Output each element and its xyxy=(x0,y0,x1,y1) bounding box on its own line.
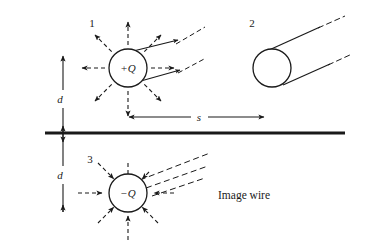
tangent-upper-dashed xyxy=(176,27,205,44)
wire-2-body xyxy=(253,16,352,87)
wire-2-tangent-upper-dashed xyxy=(318,16,345,28)
label-d-above: d xyxy=(57,93,63,105)
wire-3-perspective-lines xyxy=(140,153,210,196)
label-image-wire: Image wire xyxy=(218,189,270,202)
label-d-below: d xyxy=(57,169,63,181)
field-arrow-nw xyxy=(95,35,112,52)
tangent-lower-dashed xyxy=(178,58,206,73)
field-arrow-sw-in xyxy=(98,207,114,223)
label-charge-negative: −Q xyxy=(120,187,135,199)
field-arrow-nw-in xyxy=(98,163,114,179)
physics-diagram-svg: 1 +Q 2 xyxy=(0,0,366,249)
wire-2-tangent-lower-dashed xyxy=(328,54,352,65)
field-arrow-sw xyxy=(95,84,112,101)
label-s: s xyxy=(197,111,201,123)
field-arrow-se-in xyxy=(142,207,158,223)
label-charge-positive: +Q xyxy=(120,62,135,74)
image-tangent-upper xyxy=(140,153,210,180)
field-arrow-se xyxy=(144,84,161,101)
figure-canvas: 1 +Q 2 xyxy=(0,0,366,249)
label-item-3: 3 xyxy=(87,153,93,165)
image-tangent-mid xyxy=(146,166,208,188)
dimension-d-below: d xyxy=(57,133,63,212)
label-item-2: 2 xyxy=(249,17,255,29)
wire-2-circle xyxy=(253,49,291,87)
label-item-1: 1 xyxy=(89,17,95,29)
field-arrow-ne-in xyxy=(142,172,149,179)
field-arrow-ne xyxy=(144,35,161,52)
dimension-s: s xyxy=(129,109,264,125)
dimension-d-above: d xyxy=(57,56,63,133)
